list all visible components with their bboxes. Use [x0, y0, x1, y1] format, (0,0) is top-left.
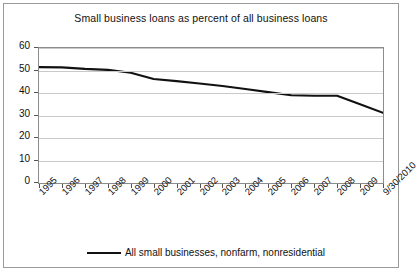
gridline-10 [39, 161, 383, 162]
y-tick-label-60: 60 [4, 41, 30, 51]
legend-item-label: All small businesses, nonfarm, nonreside… [125, 247, 325, 258]
legend-line-swatch [87, 252, 121, 254]
y-tick-label-40: 40 [4, 86, 30, 96]
y-tick-label-50: 50 [4, 64, 30, 74]
y-tick-label-10: 10 [4, 154, 30, 164]
chart-frame: Small business loans as percent of all b… [3, 3, 399, 268]
chart-title: Small business loans as percent of all b… [4, 12, 398, 24]
gridline-30 [39, 116, 383, 117]
plot-area [38, 47, 384, 184]
x-axis: 1995199619971998199920002001200220032004… [38, 184, 384, 273]
y-axis: 0102030405060 [4, 4, 38, 229]
y-tick-label-20: 20 [4, 131, 30, 141]
y-tick-label-30: 30 [4, 109, 30, 119]
gridline-50 [39, 71, 383, 72]
gridline-20 [39, 138, 383, 139]
chart-legend: All small businesses, nonfarm, nonreside… [4, 247, 408, 258]
gridline-40 [39, 93, 383, 94]
y-tick-label-0: 0 [4, 176, 30, 186]
x-tick-label-15: 9/30/2010 [381, 160, 418, 197]
gridline-60 [39, 48, 383, 49]
